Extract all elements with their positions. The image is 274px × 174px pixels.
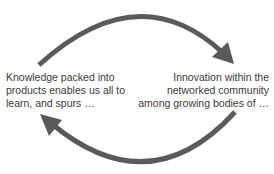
top-arrow xyxy=(39,16,234,65)
node-text-line: among growing bodies of … xyxy=(138,97,269,110)
node-text-line: products enables us all to xyxy=(6,84,125,97)
node-text-line: Knowledge packed into xyxy=(6,71,125,84)
node-innovation: Innovation within the networked communit… xyxy=(138,71,269,110)
node-knowledge: Knowledge packed into products enables u… xyxy=(6,71,125,110)
arrowhead-icon xyxy=(40,114,62,136)
bottom-arrow xyxy=(40,112,235,162)
node-text-line: Innovation within the xyxy=(138,71,269,84)
node-text-line: learn, and spurs … xyxy=(6,97,125,110)
node-text-line: networked community xyxy=(138,84,269,97)
